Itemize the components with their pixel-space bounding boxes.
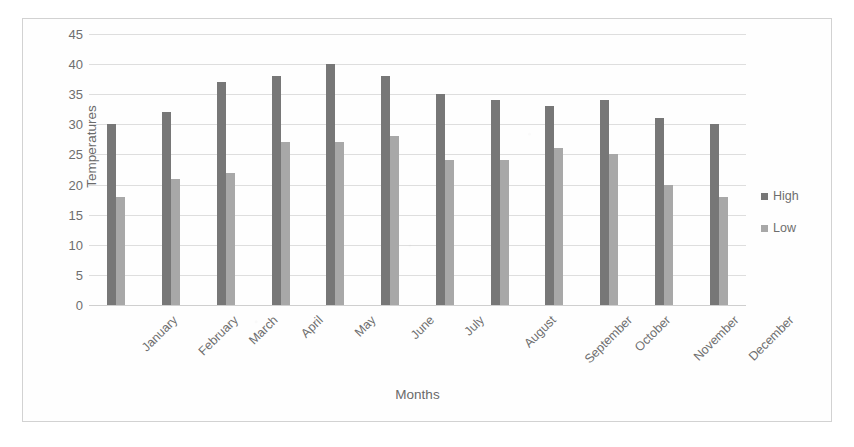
x-axis-tick-label: October: [632, 313, 673, 354]
bar: [445, 160, 454, 305]
bar: [436, 94, 445, 305]
legend-item-label: High: [773, 189, 799, 203]
x-axis-tick-label: February: [196, 313, 241, 358]
y-axis-tick-label: 30: [49, 118, 83, 131]
y-axis-tick-label: 5: [49, 268, 83, 281]
y-axis-tick-label: 20: [49, 178, 83, 191]
x-axis-tick-label: September: [582, 313, 635, 366]
bar: [107, 124, 116, 305]
bar-group: [637, 34, 692, 305]
y-axis-tick-label: 45: [49, 28, 83, 41]
bar: [217, 82, 226, 305]
bar: [500, 160, 509, 305]
bar: [609, 154, 618, 305]
legend-item[interactable]: Low: [761, 221, 831, 235]
y-axis-tick-label: 10: [49, 238, 83, 251]
chart-legend: HighLow: [761, 189, 831, 253]
bar-group: [308, 34, 363, 305]
x-axis-tick-label: March: [246, 313, 280, 347]
bar: [162, 112, 171, 305]
square-marker-icon: [761, 193, 768, 200]
bar: [491, 100, 500, 305]
bar-group: [199, 34, 254, 305]
bar: [116, 197, 125, 305]
bar-group: [144, 34, 199, 305]
bar: [390, 136, 399, 305]
gridline: [89, 305, 746, 306]
bar: [545, 106, 554, 305]
bar: [335, 142, 344, 305]
bar: [554, 148, 563, 305]
bar: [281, 142, 290, 305]
x-axis-title: Months: [89, 387, 746, 402]
bar: [710, 124, 719, 305]
bar-group: [527, 34, 582, 305]
x-axis-tick-label: June: [408, 313, 437, 342]
bar: [664, 185, 673, 305]
bar: [326, 64, 335, 305]
x-axis-tick-label: December: [746, 313, 797, 364]
bar-group: [472, 34, 527, 305]
bar-group: [418, 34, 473, 305]
bar: [226, 173, 235, 305]
x-axis-tick-label: January: [139, 313, 180, 354]
legend-item[interactable]: High: [761, 189, 831, 203]
y-axis-tick-label: 25: [49, 148, 83, 161]
x-axis-tick-label: May: [352, 313, 379, 340]
plot-area: [89, 34, 746, 305]
x-axis-tick-labels: JanuaryFebruaryMarchAprilMayJuneJulyAugu…: [89, 307, 746, 387]
y-axis-tick-label: 0: [49, 299, 83, 312]
bar-group: [582, 34, 637, 305]
legend-item-label: Low: [773, 221, 796, 235]
y-axis-tick-labels: 051015202530354045: [43, 34, 83, 305]
bar: [272, 76, 281, 305]
y-axis-tick-label: 40: [49, 58, 83, 71]
bar: [381, 76, 390, 305]
x-axis-tick-label: April: [298, 313, 326, 341]
chart-frame: Temperatures 051015202530354045 JanuaryF…: [22, 18, 832, 422]
square-marker-icon: [761, 225, 768, 232]
x-axis-tick-label: August: [521, 313, 558, 350]
x-axis-tick-label: July: [461, 313, 487, 339]
bar-group: [89, 34, 144, 305]
bar: [719, 197, 728, 305]
bar-group: [253, 34, 308, 305]
bar: [655, 118, 664, 305]
y-axis-tick-label: 35: [49, 88, 83, 101]
bar: [171, 179, 180, 305]
y-axis-tick-label: 15: [49, 208, 83, 221]
bar-group: [363, 34, 418, 305]
x-axis-tick-label: November: [691, 313, 742, 364]
bar: [600, 100, 609, 305]
bar-group: [691, 34, 746, 305]
